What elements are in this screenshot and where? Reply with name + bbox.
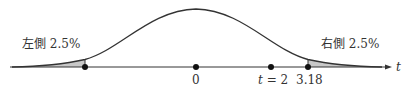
center-point [193,64,199,70]
left-tail-label: 左側 2.5% [22,36,80,51]
right-tail-label: 右側 2.5% [321,36,379,51]
right-critical-tick-label: 3.18 [296,73,323,87]
observed-t-point [268,64,274,70]
axis-arrowhead-icon [385,65,392,70]
observed-t-value: = 2 [263,73,288,87]
t-distribution-diagram: 左側 2.5% 右側 2.5% t 0 t = 2 3.18 [0,0,406,95]
right-critical-point [305,64,311,70]
observed-t-label: t = 2 [258,73,288,87]
right-tail-area [308,60,382,68]
center-tick-label: 0 [192,73,200,87]
left-tail-area [12,60,85,68]
left-critical-point [82,64,88,70]
axis-variable-label: t [396,60,401,74]
